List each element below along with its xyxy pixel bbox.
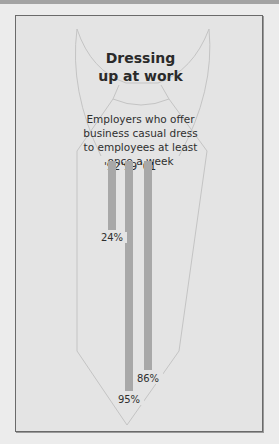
title-line-1: Dressing bbox=[15, 49, 263, 67]
chart-title: Dressing up at work bbox=[15, 49, 263, 85]
top-strip bbox=[0, 0, 279, 4]
value-label-2001: 86% bbox=[133, 373, 163, 384]
subtitle-line-3: to employees at least bbox=[15, 140, 263, 154]
value-label-1992: 24% bbox=[97, 232, 127, 243]
subtitle-line-2: business casual dress bbox=[15, 126, 263, 140]
title-line-2: up at work bbox=[15, 67, 263, 85]
bar-1999 bbox=[125, 161, 133, 391]
subtitle-line-1: Employers who offer bbox=[15, 112, 263, 126]
infographic-frame: Dressing up at work Employers who offer … bbox=[15, 15, 263, 432]
bar-2001 bbox=[144, 161, 152, 370]
value-label-1999: 95% bbox=[114, 394, 144, 405]
bar-1992 bbox=[108, 161, 116, 230]
